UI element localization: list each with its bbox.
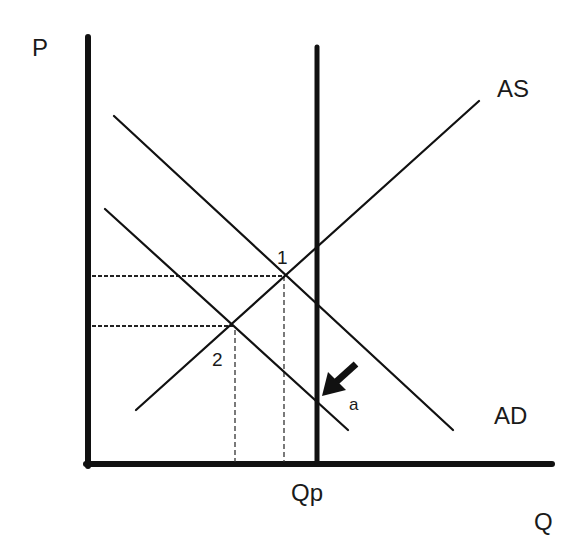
qp-label: Qp (291, 479, 323, 506)
point-1-label: 1 (277, 247, 288, 268)
ad-label: AD (494, 402, 527, 429)
point-2-label: 2 (212, 349, 223, 370)
as-ad-diagram: P Q AS AD Qp 1 2 a (0, 0, 585, 547)
y-axis-label: P (32, 34, 48, 61)
arrow-icon (322, 364, 356, 396)
x-axis-label: Q (534, 508, 553, 535)
point-a-label: a (349, 395, 359, 414)
ad-curve-lower (105, 209, 348, 430)
as-label: AS (497, 75, 529, 102)
as-curve (136, 101, 479, 410)
